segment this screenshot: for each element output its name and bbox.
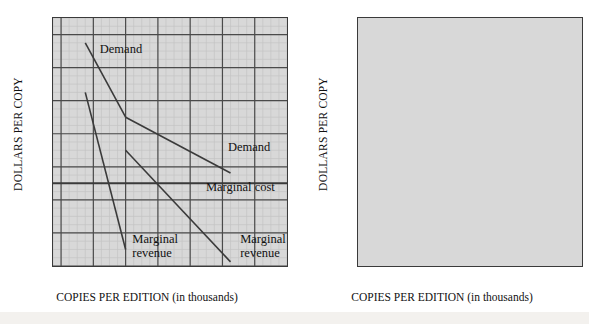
x-axis-title-paren-right: (in thousands) xyxy=(467,291,532,303)
data-lines-right xyxy=(358,18,582,266)
annotation-left-0: Demand xyxy=(100,42,142,56)
annotation-left-1: Demand xyxy=(228,140,270,154)
plot-area-left: DemandDemandMarginal costMarginal revenu… xyxy=(52,17,288,267)
chart-panel-right: DOLLARS PER COPY COPIES PER EDITION (in … xyxy=(295,0,589,324)
x-axis-title-caps-right: COPIES PER EDITION xyxy=(351,291,464,303)
x-axis-title-caps-left: COPIES PER EDITION xyxy=(56,291,169,303)
x-axis-title-paren-left: (in thousands) xyxy=(172,291,237,303)
annotation-left-2: Marginal cost xyxy=(206,180,275,194)
annotation-left-4: Marginal revenue xyxy=(240,232,286,260)
chart-panel-left: DOLLARS PER COPY DemandDemandMarginal co… xyxy=(0,0,294,324)
economics-figure: DOLLARS PER COPY DemandDemandMarginal co… xyxy=(0,0,589,324)
x-axis-tick-labels-left xyxy=(0,270,294,286)
x-axis-title-left: COPIES PER EDITION (in thousands) xyxy=(0,291,294,303)
annotation-left-3: Marginal revenue xyxy=(132,232,178,260)
plot-area-right xyxy=(357,17,583,267)
x-axis-title-right: COPIES PER EDITION (in thousands) xyxy=(295,291,589,303)
x-axis-tick-labels-right xyxy=(295,270,589,286)
scan-artifact-band xyxy=(0,312,589,324)
